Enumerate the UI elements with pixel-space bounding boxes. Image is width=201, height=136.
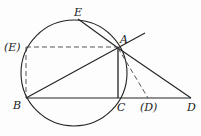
geometry-diagram: E (E) A B C (D) D bbox=[0, 0, 201, 136]
segment-EA bbox=[78, 19, 118, 48]
label-E-alt: (E) bbox=[4, 42, 21, 53]
circle bbox=[21, 20, 127, 126]
diagram-canvas bbox=[0, 0, 201, 136]
segment-AD bbox=[118, 48, 191, 98]
label-D-alt: (D) bbox=[140, 102, 157, 113]
label-D: D bbox=[187, 102, 196, 113]
label-A: A bbox=[120, 34, 128, 45]
label-E: E bbox=[74, 7, 82, 18]
dashed-ADalt bbox=[118, 48, 148, 98]
label-C: C bbox=[117, 102, 125, 113]
label-B: B bbox=[13, 100, 21, 111]
